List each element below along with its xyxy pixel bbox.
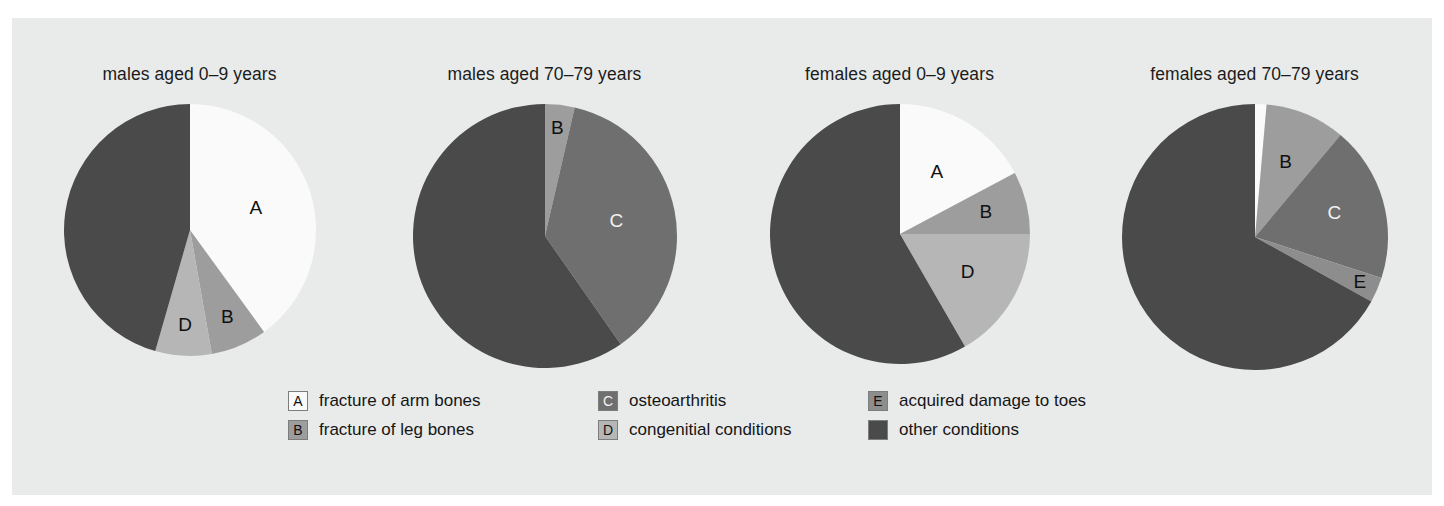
legend-swatch-other	[868, 420, 888, 440]
legend-swatch-d: D	[598, 420, 618, 440]
pie-chart-panel: males aged 0–9 yearsABD	[12, 18, 367, 348]
legend-label: other conditions	[899, 420, 1019, 440]
figure-panel: males aged 0–9 yearsABDmales aged 70–79 …	[12, 18, 1432, 495]
pie-chart-title: females aged 0–9 years	[722, 64, 1077, 85]
legend-swatch-c: C	[598, 391, 618, 411]
legend-label: fracture of arm bones	[319, 391, 481, 411]
pie-slice-label-b: B	[979, 201, 992, 222]
pie-chart-panel: females aged 0–9 yearsABD	[722, 18, 1077, 348]
pie-graphic: ABD	[768, 102, 1032, 366]
pie-graphic: ABD	[62, 102, 318, 358]
pie-graphic: ABCE	[1120, 102, 1390, 372]
legend-item: Eacquired damage to toes	[868, 386, 1086, 415]
legend-swatch-a: A	[288, 391, 308, 411]
legend-item: other conditions	[868, 415, 1086, 444]
pie-graphic: BC	[411, 102, 679, 370]
pie-slice-label-c: C	[1327, 202, 1341, 223]
pie-chart-panel: females aged 70–79 yearsABCE	[1077, 18, 1432, 348]
pie-slice-label-b: B	[1279, 151, 1292, 172]
legend-item: Costeoarthritis	[598, 386, 792, 415]
legend-label: fracture of leg bones	[319, 420, 474, 440]
pie-slice-label-a: A	[249, 197, 262, 218]
legend-column: CosteoarthritisDcongenitial conditions	[598, 386, 792, 444]
pie-slice-label-d: D	[960, 261, 974, 282]
legend-item: Afracture of arm bones	[288, 386, 481, 415]
legend-label: congenitial conditions	[629, 420, 792, 440]
legend-label: acquired damage to toes	[899, 391, 1086, 411]
pie-chart-title: females aged 70–79 years	[1077, 64, 1432, 85]
pie-slice-label-b: B	[550, 117, 563, 138]
pie-slice-label-a: A	[930, 161, 943, 182]
pie-slice-label-e: E	[1353, 271, 1366, 292]
legend-column: Eacquired damage to toesother conditions	[868, 386, 1086, 444]
legend-label: osteoarthritis	[629, 391, 726, 411]
pie-chart-title: males aged 70–79 years	[367, 64, 722, 85]
pie-slice-label-d: D	[178, 314, 192, 335]
legend-item: Dcongenitial conditions	[598, 415, 792, 444]
legend-swatch-e: E	[868, 391, 888, 411]
pie-chart-panel: males aged 70–79 yearsBC	[367, 18, 722, 348]
pie-chart-title: males aged 0–9 years	[12, 64, 367, 85]
legend-swatch-b: B	[288, 420, 308, 440]
legend-column: Afracture of arm bonesBfracture of leg b…	[288, 386, 481, 444]
pie-slice-label-b: B	[221, 306, 234, 327]
pie-slice-label-c: C	[609, 210, 623, 231]
legend-item: Bfracture of leg bones	[288, 415, 481, 444]
